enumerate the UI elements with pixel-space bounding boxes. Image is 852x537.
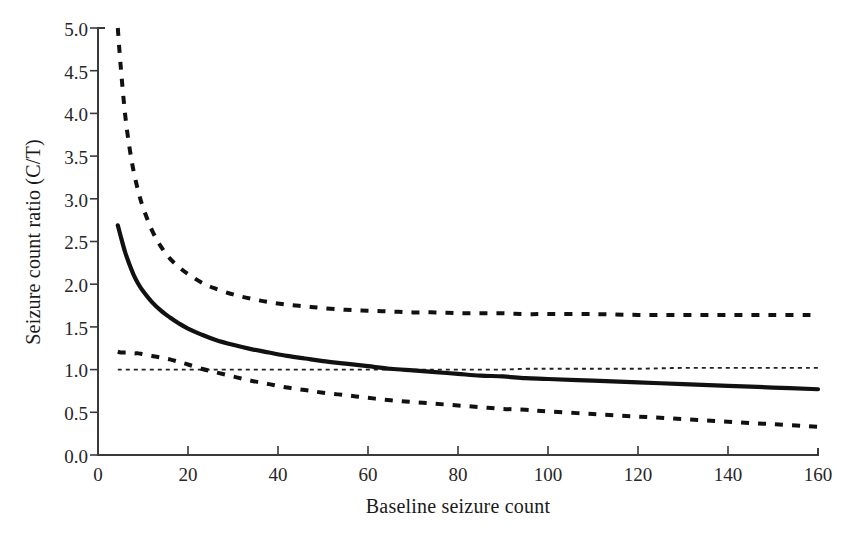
y-axis-line xyxy=(98,28,104,455)
y-tick-marks xyxy=(90,28,98,455)
y-tick-label-9: 4.5 xyxy=(64,62,88,83)
y-axis-title: Seizure count ratio (C/T) xyxy=(22,139,45,345)
y-tick-label-10: 5.0 xyxy=(64,19,88,40)
x-tick-label-6: 120 xyxy=(624,464,653,485)
x-axis-title: Baseline seizure count xyxy=(366,495,551,517)
y-tick-label-3: 1.5 xyxy=(64,318,88,339)
x-tick-label-4: 80 xyxy=(449,464,468,485)
y-tick-label-0: 0.0 xyxy=(64,446,88,467)
y-tick-label-7: 3.5 xyxy=(64,147,88,168)
x-tick-label-2: 40 xyxy=(269,464,288,485)
y-tick-label-8: 4.0 xyxy=(64,104,88,125)
reference-line-ratio-one xyxy=(118,368,818,370)
x-tick-marks xyxy=(188,446,728,455)
x-tick-label-5: 100 xyxy=(534,464,563,485)
x-tick-label-8: 160 xyxy=(804,464,833,485)
chart-figure: Seizure count ratio (C/T) Baseline seizu… xyxy=(0,0,852,537)
seizure-count-ratio-chart: Seizure count ratio (C/T) Baseline seizu… xyxy=(0,0,852,537)
y-tick-label-6: 3.0 xyxy=(64,190,88,211)
lower-confidence-curve xyxy=(118,352,818,427)
y-tick-label-4: 2.0 xyxy=(64,275,88,296)
y-tick-label-2: 1.0 xyxy=(64,360,88,381)
x-tick-label-0: 0 xyxy=(93,464,103,485)
y-tick-label-5: 2.5 xyxy=(64,232,88,253)
x-tick-label-1: 20 xyxy=(179,464,198,485)
x-tick-label-3: 60 xyxy=(359,464,378,485)
upper-confidence-curve xyxy=(118,28,818,315)
y-tick-label-1: 0.5 xyxy=(64,403,88,424)
seizure-count-ratio-curve xyxy=(118,225,818,389)
x-tick-label-7: 140 xyxy=(714,464,743,485)
